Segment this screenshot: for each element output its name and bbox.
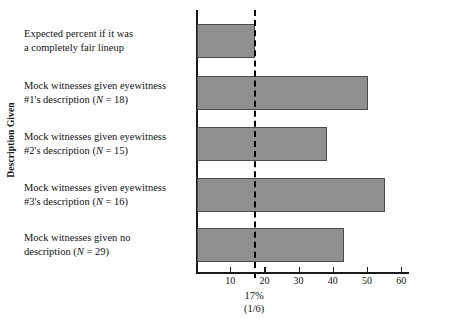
- x-tick-mark: [230, 267, 231, 272]
- threshold-percent-label: 17%: [244, 290, 264, 303]
- category-label-line2: #1's description (N = 18): [24, 93, 194, 107]
- bar-chart: Description Given Expected percent if it…: [0, 0, 458, 318]
- category-label-line2: #2's description (N = 15): [24, 144, 194, 158]
- category-label-line1: Mock witnesses given eyewitness: [24, 79, 194, 93]
- bar: [197, 24, 255, 58]
- y-axis-title: Description Given: [0, 0, 22, 280]
- bar: [197, 228, 344, 262]
- category-label-line2: #3's description (N = 16): [24, 195, 194, 209]
- category-label: Expected percent if it wasa completely f…: [24, 27, 194, 54]
- x-tick-label: 40: [328, 275, 338, 286]
- category-label-line2: description (N = 29): [24, 245, 194, 259]
- category-label: Mock witnesses given eyewitness#3's desc…: [24, 181, 194, 208]
- x-tick-label: 30: [294, 275, 304, 286]
- sample-size-symbol: N: [77, 246, 84, 257]
- y-axis-title-text: Description Given: [6, 102, 16, 177]
- plot-area: [196, 10, 448, 272]
- category-label-line1: Mock witnesses given eyewitness: [24, 181, 194, 195]
- bar: [197, 76, 368, 110]
- category-label: Mock witnesses given nodescription (N = …: [24, 231, 194, 258]
- x-axis-line: [196, 272, 409, 274]
- category-label-line1: Mock witnesses given eyewitness: [24, 130, 194, 144]
- sample-size-symbol: N: [96, 196, 103, 207]
- category-label-line1: Expected percent if it was: [24, 27, 194, 41]
- x-tick-label: 50: [362, 275, 372, 286]
- category-label-line2: a completely fair lineup: [24, 41, 194, 55]
- category-label-line1: Mock witnesses given no: [24, 231, 194, 245]
- sample-size-symbol: N: [96, 145, 103, 156]
- bar: [197, 178, 385, 212]
- threshold-annotation: 17% (1/6): [244, 290, 264, 315]
- category-label: Mock witnesses given eyewitness#2's desc…: [24, 130, 194, 157]
- x-tick-mark: [367, 267, 368, 272]
- x-tick-label: 60: [396, 275, 406, 286]
- x-axis: 102030405060 17% (1/6): [196, 272, 448, 318]
- threshold-fraction-label: (1/6): [244, 303, 264, 316]
- x-tick-mark: [333, 267, 334, 272]
- x-tick-mark: [299, 267, 300, 272]
- category-label: Mock witnesses given eyewitness#1's desc…: [24, 79, 194, 106]
- x-tick-mark: [401, 267, 402, 272]
- bar: [197, 127, 327, 161]
- threshold-dashed-line: [254, 10, 256, 278]
- sample-size-symbol: N: [96, 94, 103, 105]
- category-label-group: Expected percent if it wasa completely f…: [24, 10, 194, 270]
- x-tick-label: 10: [225, 275, 235, 286]
- x-tick-label: 20: [259, 275, 269, 286]
- x-tick-mark: [264, 267, 265, 272]
